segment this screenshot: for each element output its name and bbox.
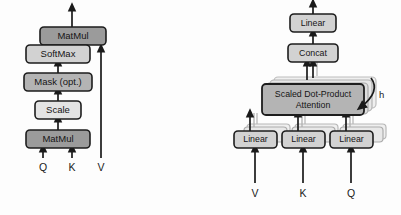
right-block-attention-label-line1: Scaled Dot-Product [275,89,352,99]
left-input-label-k: K [68,161,75,173]
left-block-matmul-top-label: MatMul [57,30,88,41]
right-input-label-k: K [299,187,306,199]
right-input-label-v: V [251,187,258,199]
right-heads-label: h [379,89,384,100]
left-block-scale-label: Scale [46,104,70,115]
right-block-linear-q-label: Linear [339,134,364,144]
left-block-matmul-top[interactable]: MatMul [40,27,106,45]
left-block-scale[interactable]: Scale [35,101,81,119]
left-block-mask[interactable]: Mask (opt.) [24,73,92,91]
left-input-label-q: Q [39,161,47,173]
right-block-linear-top[interactable]: Linear [290,14,336,32]
right-input-label-q: Q [347,187,355,199]
right-block-linear-v[interactable]: Linear [234,131,277,148]
left-block-softmax-label: SoftMax [41,48,76,59]
right-block-linear-top-label: Linear [301,18,326,28]
left-block-softmax[interactable]: SoftMax [26,45,90,63]
right-block-linear-k[interactable]: Linear [282,131,325,148]
left-block-matmul-bottom[interactable]: MatMul [26,130,90,148]
attention-figure: MatMul SoftMax Mask (opt.) Scale MatMul [0,0,401,215]
right-block-attention-label-line2: Attention [296,100,331,110]
right-block-linear-v-label: Linear [243,134,268,144]
right-block-linear-k-label: Linear [291,134,316,144]
right-block-concat-label: Concat [299,48,327,58]
left-input-label-v: V [97,161,104,173]
right-block-concat[interactable]: Concat [288,44,338,62]
left-block-matmul-bottom-label: MatMul [42,133,73,144]
right-block-scaled-dot-product-attention[interactable]: Scaled Dot-Product Attention [262,84,364,115]
left-block-mask-label: Mask (opt.) [34,76,82,87]
right-block-linear-q[interactable]: Linear [330,131,373,148]
